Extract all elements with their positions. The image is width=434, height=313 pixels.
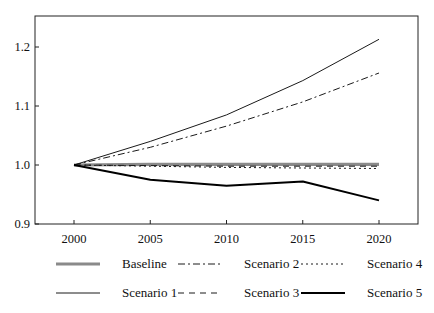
x-tick-label: 2005 — [138, 232, 163, 246]
plot-frame — [35, 16, 418, 224]
series-scenario-5 — [74, 165, 379, 200]
x-tick-label: 2015 — [290, 232, 315, 246]
y-tick-label: 1.0 — [14, 158, 30, 172]
x-tick-label: 2000 — [62, 232, 87, 246]
x-tick-label: 2010 — [214, 232, 239, 246]
series-lines — [74, 39, 379, 200]
y-tick-label: 0.9 — [14, 217, 30, 231]
series-scenario-1 — [74, 39, 379, 165]
y-tick-label: 1.1 — [14, 99, 30, 113]
line-chart: 0.91.01.11.2 20002005201020152020 — [0, 0, 434, 313]
x-tick-label: 2020 — [367, 232, 392, 246]
y-tick-label: 1.2 — [14, 40, 30, 54]
